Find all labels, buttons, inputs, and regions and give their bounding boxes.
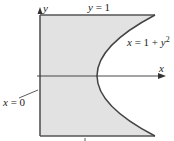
top-boundary-label: y = 1	[87, 1, 110, 13]
y-axis-arrow-icon	[38, 7, 43, 14]
region-diagram: y y = 1 x = 1 + y2 x x = 0	[0, 0, 174, 141]
x-axis-label: x	[158, 62, 164, 74]
y-axis-label: y	[42, 2, 48, 14]
left-boundary-label: x = 0	[2, 96, 26, 108]
curve-label: x = 1 + y2	[126, 35, 170, 48]
